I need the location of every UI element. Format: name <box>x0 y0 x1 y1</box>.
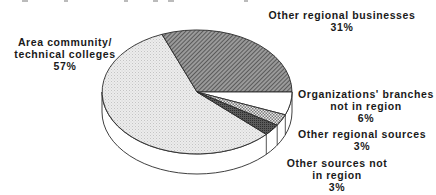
label-value: 31% <box>248 21 436 33</box>
label-value: 57% <box>6 60 124 72</box>
label-text: Other regional sources <box>288 128 436 140</box>
label-other-regional-businesses: Other regional businesses 31% <box>248 9 436 33</box>
label-text: technical colleges <box>6 48 124 60</box>
label-value: 6% <box>296 112 436 124</box>
label-text: Area community/ <box>6 36 124 48</box>
label-text: not in region <box>296 100 436 112</box>
label-value: 3% <box>288 140 436 152</box>
label-text: Other regional businesses <box>248 9 436 21</box>
label-text: Organizations' branches <box>296 88 436 100</box>
label-text: in region <box>282 169 392 181</box>
label-other-regional-sources: Other regional sources 3% <box>288 128 436 152</box>
label-text: Other sources not <box>282 157 392 169</box>
label-area-community-technical-colleges: Area community/ technical colleges 57% <box>6 36 124 72</box>
label-organizations-branches-not-in-region: Organizations' branches not in region 6% <box>296 88 436 124</box>
label-other-sources-not-in-region: Other sources not in region 3% <box>282 157 392 193</box>
label-value: 3% <box>282 181 392 193</box>
